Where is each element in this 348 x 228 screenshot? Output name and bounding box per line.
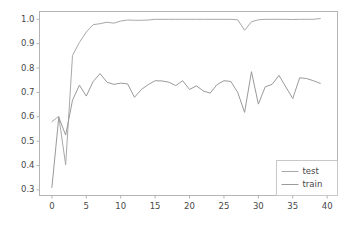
y-tick-label: 0.5: [21, 137, 35, 146]
x-tick-label: 35: [283, 202, 303, 211]
x-tick-label: 10: [111, 202, 131, 211]
series-line-test: [52, 19, 320, 165]
y-tick-label: 1.0: [21, 15, 35, 24]
x-tick-label: 25: [214, 202, 234, 211]
y-tick-label: 0.3: [21, 185, 35, 194]
x-tick-label: 40: [317, 202, 337, 211]
x-tick-label: 5: [76, 202, 96, 211]
y-tick-label: 0.4: [21, 161, 35, 170]
x-tick-label: 20: [180, 202, 200, 211]
x-tick-label: 30: [248, 202, 268, 211]
y-tick-label: 0.9: [21, 39, 35, 48]
y-tick-label: 0.6: [21, 112, 35, 121]
legend-label-test: test: [303, 167, 319, 176]
figure-canvas: 0.30.40.50.60.70.80.91.00510152025303540…: [0, 0, 348, 228]
legend-label-train: train: [303, 180, 323, 189]
x-tick-label: 0: [42, 202, 62, 211]
y-tick-label: 0.7: [21, 88, 35, 97]
y-tick-label: 0.8: [21, 64, 35, 73]
chart-plot-svg: [0, 0, 348, 228]
x-tick-label: 15: [145, 202, 165, 211]
